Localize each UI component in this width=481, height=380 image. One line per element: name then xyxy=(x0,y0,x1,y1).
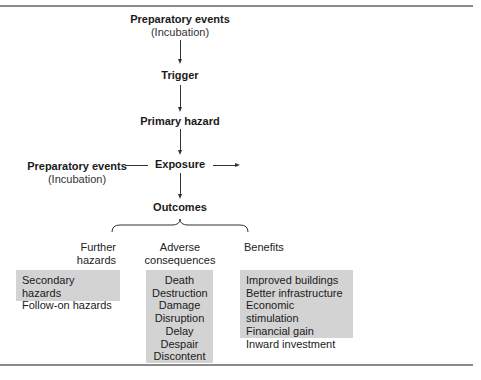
node-primary-hazard: Primary hazard xyxy=(120,115,240,128)
list-item: Financial gain xyxy=(246,325,347,338)
list-item: Inward investment xyxy=(246,338,347,351)
curly-brace-icon xyxy=(110,218,250,234)
category-label-adverse-consequences: Adverse consequences xyxy=(140,241,220,266)
list-item: Improved buildings xyxy=(246,274,347,287)
arrow-down-icon xyxy=(178,150,182,155)
connector-line xyxy=(180,129,181,151)
list-item: Damage xyxy=(152,299,207,312)
category-label-line: consequences xyxy=(140,254,220,267)
list-item: Secondary hazards xyxy=(22,274,114,299)
box-benefits: Improved buildings Better infrastructure… xyxy=(240,270,353,338)
node-exposure: Exposure xyxy=(145,158,215,171)
arrow-right-icon xyxy=(235,163,240,167)
list-item: Disruption xyxy=(152,312,207,325)
connector-line xyxy=(180,85,181,108)
category-label-line: Adverse xyxy=(140,241,220,254)
top-rule xyxy=(0,5,473,7)
node-sublabel: (Incubation) xyxy=(120,26,240,39)
list-item: Despair xyxy=(152,338,207,351)
node-sublabel: (Incubation) xyxy=(12,173,142,186)
connector-line xyxy=(213,165,236,166)
connector-line xyxy=(180,173,181,195)
arrow-down-icon xyxy=(178,59,182,64)
node-preparatory-events-left: Preparatory events (Incubation) xyxy=(12,160,142,186)
category-label-benefits: Benefits xyxy=(244,241,324,254)
list-item: Destruction xyxy=(152,287,207,300)
category-label-further-hazards: Further hazards xyxy=(62,241,116,266)
list-item: Death xyxy=(152,274,207,287)
category-label-line: hazards xyxy=(62,254,116,267)
box-adverse-consequences: Death Destruction Damage Disruption Dela… xyxy=(146,270,213,363)
node-trigger: Trigger xyxy=(140,69,220,82)
category-label-line: Benefits xyxy=(244,241,324,254)
node-label: Preparatory events xyxy=(12,160,142,173)
list-item: Discontent xyxy=(152,350,207,363)
node-outcomes: Outcomes xyxy=(140,201,220,214)
list-item: Economic stimulation xyxy=(246,299,347,324)
box-further-hazards: Secondary hazards Follow-on hazards xyxy=(16,270,120,301)
bottom-rule xyxy=(0,364,473,366)
category-label-line: Further xyxy=(62,241,116,254)
list-item: Delay xyxy=(152,325,207,338)
list-item: Follow-on hazards xyxy=(22,299,114,312)
connector-line xyxy=(180,40,181,60)
list-item: Better infrastructure xyxy=(246,287,347,300)
node-preparatory-events-top: Preparatory events (Incubation) xyxy=(120,13,240,39)
arrow-down-icon xyxy=(178,107,182,112)
arrow-down-icon xyxy=(178,194,182,199)
node-label: Preparatory events xyxy=(120,13,240,26)
